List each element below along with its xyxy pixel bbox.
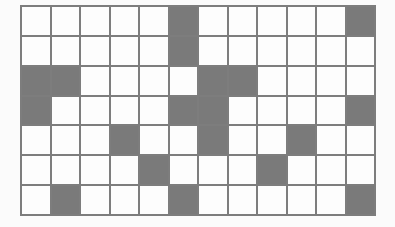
grid-cell-filled: [288, 126, 318, 156]
grid-cell-empty: [317, 7, 347, 37]
grid-cell-empty: [81, 67, 111, 97]
grid-cell-empty: [347, 156, 377, 186]
grid-cell-empty: [229, 97, 259, 127]
grid-cell-empty: [229, 186, 259, 216]
grid-cell-empty: [288, 156, 318, 186]
grid-cell-filled: [170, 37, 200, 67]
grid-cell-filled: [170, 186, 200, 216]
grid-cell-empty: [22, 7, 52, 37]
grid-cell-empty: [258, 7, 288, 37]
grid-cell-empty: [317, 97, 347, 127]
grid-cell-empty: [111, 7, 141, 37]
grid-cell-filled: [170, 7, 200, 37]
grid-cell-empty: [199, 7, 229, 37]
grid-cell-empty: [199, 156, 229, 186]
grid-cell-empty: [52, 37, 82, 67]
grid-cell-empty: [81, 126, 111, 156]
grid-cell-empty: [288, 67, 318, 97]
grid-cell-empty: [258, 186, 288, 216]
grid-cell-empty: [170, 67, 200, 97]
grid-cell-empty: [140, 97, 170, 127]
grid-cell-filled: [199, 67, 229, 97]
grid-cell-empty: [229, 126, 259, 156]
grid-cell-filled: [52, 67, 82, 97]
grid-cell-empty: [347, 67, 377, 97]
grid-cell-empty: [258, 37, 288, 67]
cell-grid: [20, 5, 376, 216]
grid-cell-empty: [22, 37, 52, 67]
grid-cell-filled: [170, 97, 200, 127]
grid-cell-filled: [229, 67, 259, 97]
grid-cell-empty: [111, 97, 141, 127]
grid-cell-filled: [140, 156, 170, 186]
grid-cell-empty: [140, 37, 170, 67]
grid-cell-empty: [22, 126, 52, 156]
grid-cell-empty: [140, 7, 170, 37]
grid-cell-empty: [258, 97, 288, 127]
grid-cell-empty: [52, 126, 82, 156]
grid-cell-empty: [111, 156, 141, 186]
grid-cell-empty: [317, 126, 347, 156]
diagram-canvas: [0, 0, 395, 227]
grid-cell-empty: [317, 37, 347, 67]
grid-cell-empty: [22, 156, 52, 186]
grid-cell-empty: [140, 67, 170, 97]
grid-cell-empty: [52, 7, 82, 37]
grid-cell-empty: [199, 186, 229, 216]
grid-cell-empty: [229, 156, 259, 186]
grid-cell-empty: [140, 186, 170, 216]
grid-cell-empty: [111, 186, 141, 216]
grid-cell-empty: [52, 156, 82, 186]
grid-cell-filled: [258, 156, 288, 186]
grid-cell-filled: [22, 97, 52, 127]
grid-cell-filled: [199, 126, 229, 156]
grid-cell-empty: [288, 7, 318, 37]
grid-cell-empty: [347, 126, 377, 156]
grid-cell-filled: [111, 126, 141, 156]
grid-cell-empty: [317, 186, 347, 216]
grid-cell-empty: [170, 126, 200, 156]
grid-cell-empty: [347, 37, 377, 67]
grid-cell-empty: [22, 186, 52, 216]
grid-cell-empty: [111, 37, 141, 67]
grid-cell-filled: [347, 97, 377, 127]
grid-cell-empty: [288, 186, 318, 216]
grid-cell-empty: [229, 7, 259, 37]
grid-cell-empty: [229, 37, 259, 67]
grid-cell-empty: [170, 156, 200, 186]
grid-cell-filled: [199, 97, 229, 127]
grid-cell-empty: [199, 37, 229, 67]
grid-cell-empty: [288, 97, 318, 127]
grid-cell-empty: [258, 126, 288, 156]
grid-cell-empty: [81, 97, 111, 127]
grid-cell-filled: [22, 67, 52, 97]
grid-cell-empty: [317, 156, 347, 186]
grid-cell-empty: [81, 156, 111, 186]
grid-cell-empty: [258, 67, 288, 97]
grid-cell-empty: [81, 186, 111, 216]
grid-cell-empty: [288, 37, 318, 67]
grid-cell-filled: [347, 186, 377, 216]
grid-cell-filled: [52, 186, 82, 216]
grid-cell-empty: [111, 67, 141, 97]
grid-cell-empty: [81, 37, 111, 67]
grid-cell-empty: [140, 126, 170, 156]
grid-cell-empty: [52, 97, 82, 127]
grid-cell-empty: [81, 7, 111, 37]
grid-cell-empty: [317, 67, 347, 97]
grid-cell-filled: [347, 7, 377, 37]
